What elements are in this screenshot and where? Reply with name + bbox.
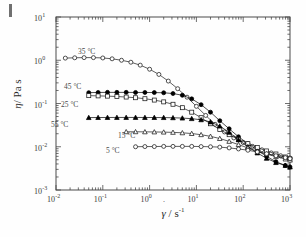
- data-point-marker: [227, 146, 231, 150]
- data-point-marker: [73, 56, 77, 60]
- data-point-marker: [171, 92, 175, 96]
- x-tick-label: 103: [281, 193, 292, 204]
- x-tick-label: 10-2: [47, 193, 60, 204]
- series-line: [89, 117, 290, 167]
- data-point-marker: [204, 113, 208, 117]
- data-point-marker: [199, 145, 203, 149]
- data-point-marker: [63, 56, 67, 60]
- chart-canvas: [0, 0, 306, 237]
- x-tick-label: 102: [234, 193, 245, 204]
- series-label-45C: 45 °C: [64, 82, 81, 91]
- series-label-25C: 25 °C: [61, 100, 78, 109]
- y-tick-label: 10-1: [34, 99, 47, 110]
- data-point-marker: [162, 144, 166, 148]
- x-axis-exponent: -1: [179, 206, 185, 214]
- data-point-marker: [237, 147, 241, 151]
- data-point-marker: [143, 145, 147, 149]
- data-point-marker: [227, 130, 232, 134]
- data-point-marker: [134, 96, 138, 100]
- data-point-marker: [171, 144, 175, 148]
- y-axis-unit: / Pa s: [11, 79, 23, 103]
- y-tick-label: 101: [34, 12, 45, 23]
- data-point-marker: [190, 144, 194, 148]
- data-point-marker: [190, 110, 194, 114]
- data-point-marker: [171, 102, 175, 106]
- series-5C: [134, 144, 292, 160]
- data-point-marker: [194, 104, 198, 108]
- data-point-marker: [82, 56, 86, 60]
- series-label-35C: 35 °C: [78, 47, 95, 56]
- data-point-marker: [208, 110, 212, 114]
- series-label-5C: 5 °C: [106, 146, 120, 155]
- data-point-marker: [166, 79, 170, 83]
- series-line: [65, 58, 290, 158]
- data-point-marker: [152, 98, 156, 102]
- data-point-marker: [96, 94, 100, 98]
- data-point-marker: [180, 144, 184, 148]
- data-point-marker: [157, 72, 161, 76]
- y-axis-label: η/ Pa s: [11, 64, 23, 124]
- data-point-marker: [288, 157, 292, 161]
- data-point-marker: [152, 145, 156, 149]
- series-45C: [87, 90, 292, 169]
- data-point-marker: [143, 90, 147, 94]
- data-point-marker: [138, 63, 142, 67]
- data-point-marker: [190, 97, 194, 101]
- series-line: [89, 92, 290, 167]
- data-point-marker: [208, 145, 212, 149]
- data-point-marker: [91, 56, 95, 60]
- data-point-marker: [274, 154, 278, 158]
- series-label-15C: 15 °C: [118, 131, 135, 140]
- y-axis-symbol: η: [11, 103, 23, 108]
- y-tick-label: 10-3: [34, 185, 47, 196]
- data-point-marker: [115, 95, 119, 99]
- data-point-marker: [87, 94, 91, 98]
- data-point-marker: [124, 90, 128, 94]
- series-55C: [86, 115, 292, 169]
- data-point-marker: [180, 93, 184, 97]
- x-axis-label: γ̇ / s-1: [118, 206, 228, 219]
- data-point-marker: [129, 60, 133, 64]
- data-point-marker: [162, 100, 166, 104]
- data-point-marker: [217, 124, 222, 128]
- x-tick-label: 100: [141, 193, 152, 204]
- data-point-marker: [236, 142, 241, 146]
- data-point-marker: [162, 91, 166, 95]
- data-point-marker: [255, 150, 259, 154]
- data-point-marker: [134, 90, 138, 94]
- data-point-marker: [180, 106, 184, 110]
- data-point-marker: [143, 97, 147, 101]
- data-point-marker: [134, 145, 138, 149]
- data-point-marker: [218, 145, 222, 149]
- data-point-marker: [265, 152, 269, 156]
- data-point-marker: [218, 119, 222, 123]
- data-point-marker: [115, 90, 119, 94]
- y-tick-label: 100: [34, 55, 45, 66]
- data-point-marker: [105, 90, 109, 94]
- data-point-marker: [148, 67, 152, 71]
- data-point-marker: [199, 103, 203, 107]
- x-tick-label: 101: [187, 193, 198, 204]
- data-point-marker: [246, 148, 250, 152]
- data-point-marker: [105, 94, 109, 98]
- data-point-marker: [101, 56, 105, 60]
- series-label-55C: 55 °C: [51, 120, 68, 129]
- y-tick-label: 10-2: [34, 142, 47, 153]
- figure-panel: η/ Pa s γ̇ / s-1 10-210-1100101102103101…: [0, 0, 306, 237]
- data-point-marker: [176, 87, 180, 91]
- data-point-marker: [110, 57, 114, 61]
- x-tick-label: 10-1: [94, 193, 107, 204]
- data-point-marker: [152, 91, 156, 95]
- x-axis-unit: / s: [169, 207, 179, 219]
- data-point-marker: [283, 156, 287, 160]
- x-axis-symbol: γ̇: [161, 207, 165, 219]
- data-point-marker: [124, 95, 128, 99]
- data-point-marker: [120, 58, 124, 62]
- series-35C: [63, 56, 292, 160]
